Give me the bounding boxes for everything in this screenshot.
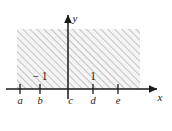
tick-label-a: a bbox=[17, 95, 22, 106]
y-axis-label: y bbox=[72, 12, 78, 24]
tick-label-c: c bbox=[68, 95, 73, 106]
coordinate-plane-figure: − 1 1 a b c d e y x bbox=[0, 0, 172, 131]
region-left-shoulder bbox=[16, 29, 18, 89]
figure-container: − 1 1 a b c d e y x bbox=[0, 0, 172, 131]
tick-label-b: b bbox=[37, 95, 42, 106]
tick-label-d: d bbox=[90, 95, 96, 106]
value-label-one: 1 bbox=[90, 70, 96, 82]
x-axis-label: x bbox=[157, 91, 163, 103]
region-right-shoulder bbox=[140, 29, 142, 89]
value-label-minus-one: − 1 bbox=[32, 70, 47, 82]
tick-label-e: e bbox=[116, 95, 121, 106]
